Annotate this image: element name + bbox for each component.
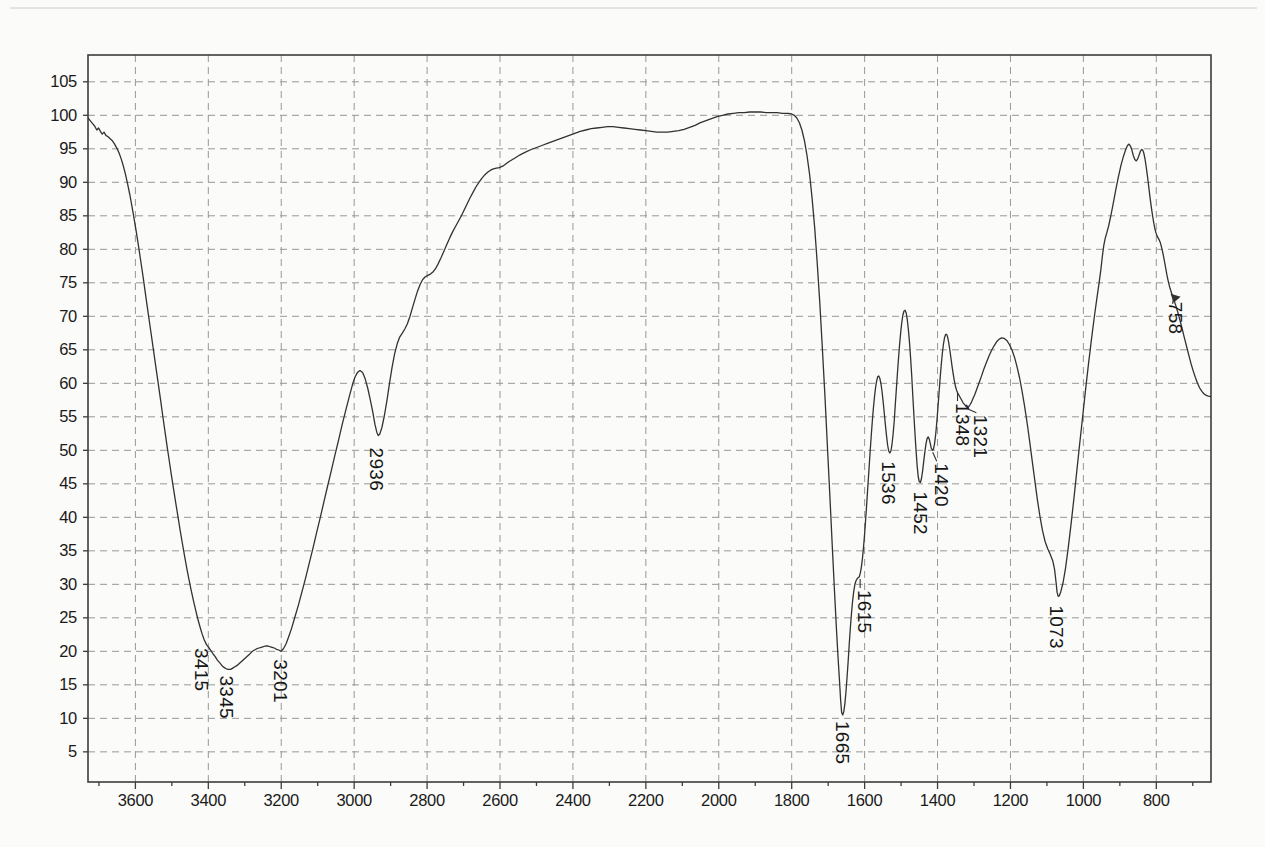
peak-label-1321: 1321: [970, 415, 991, 458]
peak-label-3201: 3201: [270, 659, 291, 702]
x-tick-label: 1200: [993, 791, 1029, 809]
spectrum-curve: [88, 112, 1211, 715]
peak-label-3415: 3415: [191, 648, 212, 691]
x-tick-label: 2000: [701, 791, 737, 809]
x-tick-label: 3600: [118, 791, 154, 809]
y-tick-label: 20: [59, 642, 77, 660]
peak-label-1420: 1420: [931, 463, 952, 506]
x-tick-label: 2800: [409, 791, 445, 809]
y-tick-label: 100: [50, 106, 77, 124]
plot-frame: [88, 55, 1211, 782]
x-tick-label: 1800: [774, 791, 810, 809]
y-tick-label: 55: [59, 407, 77, 425]
y-tick-label: 30: [59, 575, 77, 593]
y-tick-label: 35: [59, 541, 77, 559]
ir-spectrum-svg: 3600340032003000280026002400220020001800…: [0, 0, 1265, 847]
y-tick-label: 80: [59, 240, 77, 258]
peak-label-1615: 1615: [854, 590, 875, 633]
y-tick-label: 60: [59, 374, 77, 392]
x-tick-label: 2200: [628, 791, 664, 809]
peak-label-2936: 2936: [366, 448, 387, 491]
y-tick-label: 65: [59, 340, 77, 358]
gridlines: [88, 55, 1211, 782]
x-tick-label: 3200: [263, 791, 299, 809]
x-tick-labels: 3600340032003000280026002400220020001800…: [118, 791, 1170, 809]
y-tick-label: 15: [59, 675, 77, 693]
x-tick-label: 2400: [555, 791, 591, 809]
peak-label-758: 758: [1165, 302, 1186, 335]
x-tick-label: 1000: [1066, 791, 1102, 809]
peak-label-1452: 1452: [910, 491, 931, 534]
axis-ticks: [83, 82, 1193, 789]
peak-label-3345: 3345: [216, 675, 237, 718]
x-tick-label: 800: [1143, 791, 1170, 809]
y-tick-label: 45: [59, 474, 77, 492]
y-tick-label: 85: [59, 206, 77, 224]
x-tick-label: 1400: [920, 791, 956, 809]
peak-label-1073: 1073: [1045, 605, 1066, 648]
y-tick-label: 75: [59, 273, 77, 291]
y-tick-label: 90: [59, 173, 77, 191]
ir-spectrum-chart: 3600340032003000280026002400220020001800…: [0, 0, 1265, 847]
y-tick-label: 5: [68, 742, 77, 760]
peak-leader-1420: [933, 452, 937, 461]
x-tick-label: 2600: [482, 791, 518, 809]
y-tick-label: 95: [59, 139, 77, 157]
y-tick-label: 50: [59, 441, 77, 459]
y-tick-label: 25: [59, 608, 77, 626]
x-tick-label: 1600: [847, 791, 883, 809]
y-tick-label: 40: [59, 508, 77, 526]
y-tick-label: 10: [59, 709, 77, 727]
x-tick-label: 3400: [191, 791, 227, 809]
peak-label-1665: 1665: [832, 721, 853, 764]
peak-label-1536: 1536: [878, 461, 899, 504]
y-tick-label: 105: [50, 72, 77, 90]
y-tick-label: 70: [59, 307, 77, 325]
peak-labels: 3415334532012936166516151536145214201348…: [191, 294, 1186, 765]
y-tick-labels: 1051009590858075706560555045403530252015…: [50, 72, 77, 760]
x-tick-label: 3000: [336, 791, 372, 809]
